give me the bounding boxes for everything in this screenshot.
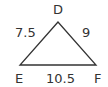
vertex-label-e: E	[15, 72, 23, 85]
vertex-label-d: D	[53, 3, 63, 16]
vertex-label-f: F	[94, 72, 101, 85]
side-label-ef: 10.5	[46, 72, 75, 85]
side-label-df: 9	[82, 26, 90, 39]
side-label-de: 7.5	[15, 26, 36, 39]
